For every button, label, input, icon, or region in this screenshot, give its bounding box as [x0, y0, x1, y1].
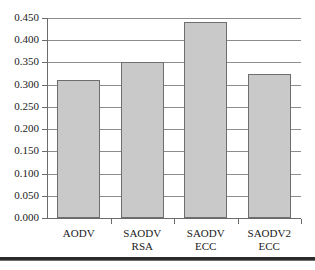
y-axis-tick [42, 62, 47, 63]
y-axis-tick [42, 218, 47, 219]
y-axis-tick-label: 0.300 [0, 79, 39, 90]
gridline [47, 62, 301, 63]
bar [121, 62, 164, 218]
y-axis-tick [42, 196, 47, 197]
bar [184, 22, 227, 218]
x-axis-tick [174, 219, 175, 224]
y-axis-tick-label: 0.350 [0, 56, 39, 67]
y-axis-tick [42, 129, 47, 130]
x-axis-tick [238, 219, 239, 224]
bar [248, 74, 291, 218]
x-axis-tick [301, 219, 302, 224]
y-axis-tick [42, 40, 47, 41]
bar-chart-figure: 0.4500.4000.3500.3000.2500.2000.1500.100… [0, 0, 315, 270]
y-axis-tick [42, 151, 47, 152]
x-axis-category-label: SAODV2 ECC [232, 227, 306, 253]
y-axis-tick-label: 0.100 [0, 168, 39, 179]
gridline [47, 18, 301, 19]
bottom-rule-secondary [0, 260, 315, 261]
gridline [47, 40, 301, 41]
bar [57, 80, 100, 218]
y-axis-tick [42, 174, 47, 175]
y-axis-tick-label: 0.200 [0, 123, 39, 134]
y-axis-tick-label: 0.000 [0, 212, 39, 223]
y-axis-tick [42, 85, 47, 86]
y-axis-tick-label: 0.400 [0, 34, 39, 45]
x-axis-tick [111, 219, 112, 224]
y-axis-tick-label: 0.150 [0, 145, 39, 156]
y-axis-line [47, 18, 48, 219]
plot-area [47, 18, 301, 218]
y-axis-tick [42, 18, 47, 19]
y-axis-tick [42, 107, 47, 108]
y-axis-tick-label: 0.450 [0, 12, 39, 23]
y-axis-tick-label: 0.050 [0, 190, 39, 201]
y-axis-tick-label: 0.250 [0, 101, 39, 112]
